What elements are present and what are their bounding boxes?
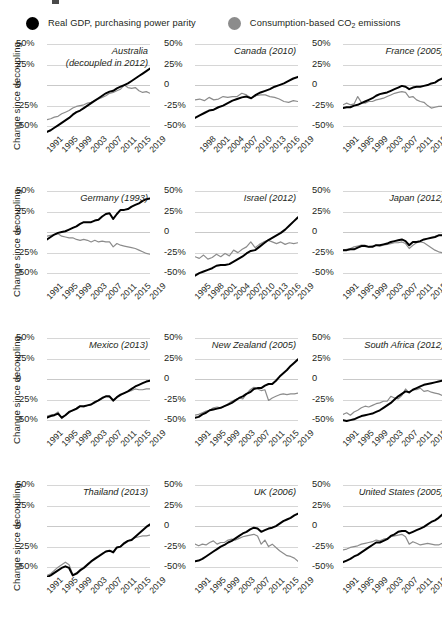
y-tick-label: 25% [16, 207, 35, 216]
x-axis-ticks: 19911995199920032007201120152019 [343, 589, 442, 627]
plot-wrapper: 50%25%0-25%-50%Japan (2012) [312, 191, 442, 295]
panel-title: Israel (2012) [244, 192, 296, 205]
y-tick-label: 50% [312, 186, 331, 195]
plot-area [47, 191, 150, 283]
series-line-gdp [47, 69, 150, 132]
legend-item-gdp: Real GDP, purchasing power parity [26, 17, 196, 30]
chart-panel-australia: Change since decoupling50%25%0-25%-50%Au… [0, 40, 150, 187]
y-tick-label: 50% [164, 39, 183, 48]
panel-title: Japan (2012) [389, 192, 442, 205]
y-tick-label: 0 [16, 80, 21, 89]
plot-wrapper: 50%25%0-25%-50%Canada (2010) [164, 44, 298, 148]
y-tick-label: 25% [164, 354, 183, 363]
y-tick-label: 0 [164, 80, 169, 89]
panel-row: Change since decoupling50%25%0-25%-50%Au… [0, 40, 442, 187]
x-axis-ticks: 19911995199920032007201120152019 [47, 295, 157, 333]
y-tick-label: -50% [164, 268, 186, 277]
y-tick-label: 25% [312, 207, 331, 216]
y-tick-label: -50% [16, 121, 38, 130]
plot-wrapper: 50%25%0-25%-50%Israel (2012) [164, 191, 298, 295]
y-tick-label: 0 [164, 227, 169, 236]
x-axis-ticks: 199519982001200420072010201320162019 [195, 295, 305, 333]
x-axis-ticks: 19911995199920032007201120152019 [195, 589, 305, 627]
chart-legend: Real GDP, purchasing power parity Consum… [0, 10, 442, 36]
y-tick-label: 0 [164, 521, 169, 530]
panel-title: South Africa (2012) [364, 339, 442, 352]
y-tick-label: 0 [312, 80, 317, 89]
y-axis-label: Change since decoupling [0, 187, 14, 299]
legend-label-gdp: Real GDP, purchasing power parity [48, 18, 196, 28]
y-tick-label: 25% [312, 501, 331, 510]
chart-panel-uk: 50%25%0-25%-50%UK (2006)1991199519992003… [148, 481, 298, 628]
chart-panel-united-states: 50%25%0-25%-50%United States (2005)19911… [296, 481, 442, 628]
legend-dot-gray-icon [228, 17, 241, 30]
y-tick-label: -25% [312, 101, 334, 110]
panel-title: Mexico (2013) [89, 339, 148, 352]
panel-subtitle: (decoupled in 2012) [66, 58, 148, 68]
plot-area [343, 191, 442, 283]
panel-title: Canada (2010) [234, 45, 296, 58]
x-axis-ticks: 19911995199920032007201120152019 [47, 442, 157, 480]
y-tick-label: 25% [16, 60, 35, 69]
series-line-gdp [195, 77, 298, 118]
x-axis-ticks: 19911995199920032007201120152019 [195, 442, 305, 480]
chart-panel-canada: 50%25%0-25%-50%Canada (2010)199820012004… [148, 40, 298, 187]
y-tick-label: 25% [164, 501, 183, 510]
panel-title: Germany (1993) [80, 192, 148, 205]
plot-area [343, 485, 442, 577]
plot-wrapper: 50%25%0-25%-50%South Africa (2012) [312, 338, 442, 442]
panel-row: Change since decoupling50%25%0-25%-50%Ge… [0, 187, 442, 334]
y-tick-label: -25% [16, 101, 38, 110]
plot-wrapper: 50%25%0-25%-50%Germany (1993) [16, 191, 150, 295]
chart-panel-mexico: Change since decoupling50%25%0-25%-50%Me… [0, 334, 150, 481]
plot-area [47, 338, 150, 430]
y-tick-label: 25% [16, 501, 35, 510]
y-tick-label: 50% [16, 186, 35, 195]
y-tick-label: 0 [312, 227, 317, 236]
y-tick-label: 50% [312, 39, 331, 48]
y-tick-label: -50% [16, 415, 38, 424]
y-tick-label: 0 [16, 521, 21, 530]
y-tick-label: 0 [16, 374, 21, 383]
chart-panel-thailand: Change since decoupling50%25%0-25%-50%Th… [0, 481, 150, 628]
crop-artifact [52, 0, 59, 4]
y-tick-label: -50% [312, 415, 334, 424]
series-line-gdp [47, 381, 150, 418]
y-tick-label: 25% [312, 354, 331, 363]
y-tick-label: 50% [164, 480, 183, 489]
x-axis-ticks: 19911995199920032007201120152019 [343, 295, 442, 333]
legend-dot-black-icon [26, 17, 39, 30]
series-line-co2 [343, 534, 442, 550]
y-tick-label: -50% [312, 562, 334, 571]
y-tick-label: 50% [312, 333, 331, 342]
panel-title: United States (2005) [359, 486, 442, 499]
panel-row: Change since decoupling50%25%0-25%-50%Me… [0, 334, 442, 481]
y-tick-label: 50% [16, 333, 35, 342]
y-tick-label: -50% [164, 121, 186, 130]
panel-title: France (2005) [386, 45, 442, 58]
y-tick-label: -25% [312, 395, 334, 404]
y-tick-label: 25% [16, 354, 35, 363]
x-axis-ticks: 19911995199920032007201120152019 [343, 442, 442, 480]
y-tick-label: -50% [312, 268, 334, 277]
y-tick-label: 50% [16, 39, 35, 48]
series-line-co2 [47, 389, 150, 419]
plot-wrapper: 50%25%0-25%-50%France (2005) [312, 44, 442, 148]
y-tick-label: -25% [164, 395, 186, 404]
series-line-co2 [195, 534, 298, 561]
chart-panel-israel: 50%25%0-25%-50%Israel (2012)199519982001… [148, 187, 298, 334]
series-line-gdp [343, 77, 442, 108]
series-line-gdp [343, 381, 442, 421]
series-line-gdp [343, 512, 442, 562]
x-axis-ticks: 19982001200420072010201320162019 [195, 148, 305, 186]
y-tick-label: 25% [164, 207, 183, 216]
x-axis-ticks: 19911995199920032007201120152019 [47, 148, 157, 186]
y-tick-label: -25% [164, 248, 186, 257]
panel-title: Australia [112, 45, 148, 58]
plot-area [195, 191, 298, 283]
plot-wrapper: 50%25%0-25%-50%Australia(decoupled in 20… [16, 44, 150, 148]
plot-wrapper: 50%25%0-25%-50%UK (2006) [164, 485, 298, 589]
y-tick-label: -25% [164, 101, 186, 110]
legend-item-co2: Consumption-based CO2 emissions [228, 17, 401, 30]
series-line-co2 [47, 85, 150, 120]
